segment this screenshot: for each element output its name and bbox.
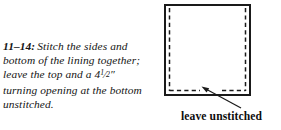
measurement-unit: ″ bbox=[110, 68, 115, 80]
figure-page: 11–14:Stitch the sides and bottom of the… bbox=[0, 0, 281, 130]
measurement-value: 41⁄2″ bbox=[95, 68, 115, 80]
figure-caption: 11–14:Stitch the sides and bottom of the… bbox=[3, 39, 143, 111]
caption-text-part-2: turning opening at the bottom unstitched… bbox=[3, 84, 142, 110]
fabric-outline-rect bbox=[165, 5, 250, 95]
figure-number: 11–14: bbox=[3, 40, 35, 52]
leave-unstitched-label: leave unstitched bbox=[181, 110, 262, 123]
